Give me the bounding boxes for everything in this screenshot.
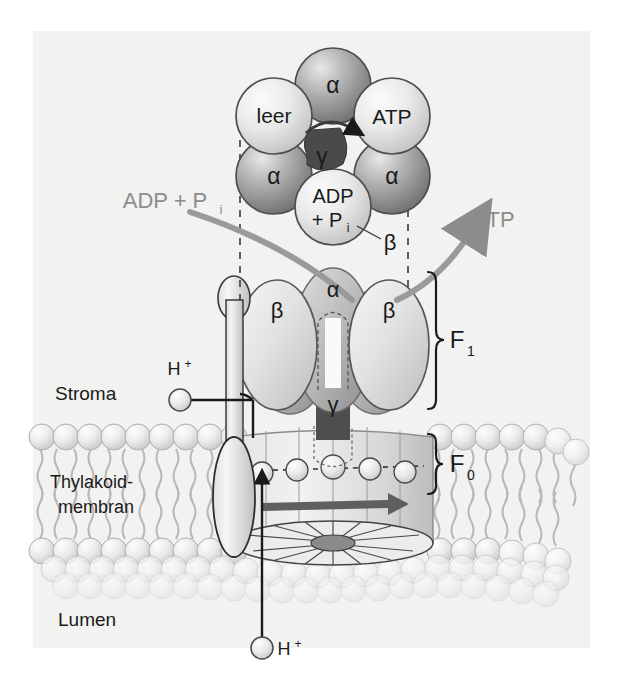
label-proton-lumen-sup: + [294, 637, 301, 651]
label-f1-gamma: γ [328, 392, 339, 417]
proton-sphere-lumen [251, 637, 273, 659]
label-f1-beta-left: β [271, 298, 284, 323]
atp-synthase-figure: α leer ATP α α ADP + P i γ β ADP + P i A… [0, 0, 621, 680]
subunit-beta-adp [295, 169, 371, 245]
label-f0-main: F [450, 450, 465, 477]
label-f1-alpha: α [327, 277, 340, 302]
b-subunit-rod [226, 300, 243, 460]
label-stroma: Stroma [55, 383, 117, 404]
proton-sphere-stroma [169, 389, 191, 411]
label-membrane-line2: membran [58, 497, 134, 517]
label-beta-adp-line1: ADP [312, 185, 353, 207]
label-beta-callout: β [384, 230, 397, 255]
a-subunit [213, 437, 255, 557]
label-membrane-line1: Thylakoid- [50, 472, 133, 492]
label-gamma-top: γ [316, 143, 328, 169]
label-proton-lumen-main: H [278, 639, 291, 659]
label-alpha-top: α [326, 72, 339, 98]
rotor-hub [311, 535, 355, 551]
label-atp-output: ATP [473, 207, 514, 232]
label-alpha-lower-left: α [267, 163, 280, 189]
label-beta-adp-line2-sub: i [347, 221, 350, 235]
label-f1-beta-right: β [383, 298, 396, 323]
label-proton-stroma-sup: + [184, 357, 191, 371]
label-f1-sub: 1 [467, 343, 475, 359]
label-f1-main: F [450, 326, 465, 353]
label-beta-adp-line2-main: + P [312, 209, 343, 231]
label-proton-stroma-main: H [168, 359, 181, 379]
gamma-channel-highlight [325, 318, 341, 388]
label-adp-input-sub: i [220, 202, 223, 217]
label-beta-atp: ATP [372, 105, 411, 128]
label-f0-sub: 0 [467, 467, 475, 483]
label-alpha-lower-right: α [385, 163, 398, 189]
label-lumen: Lumen [58, 609, 116, 630]
label-beta-empty: leer [256, 104, 291, 127]
label-adp-input-main: ADP + P [123, 188, 208, 213]
